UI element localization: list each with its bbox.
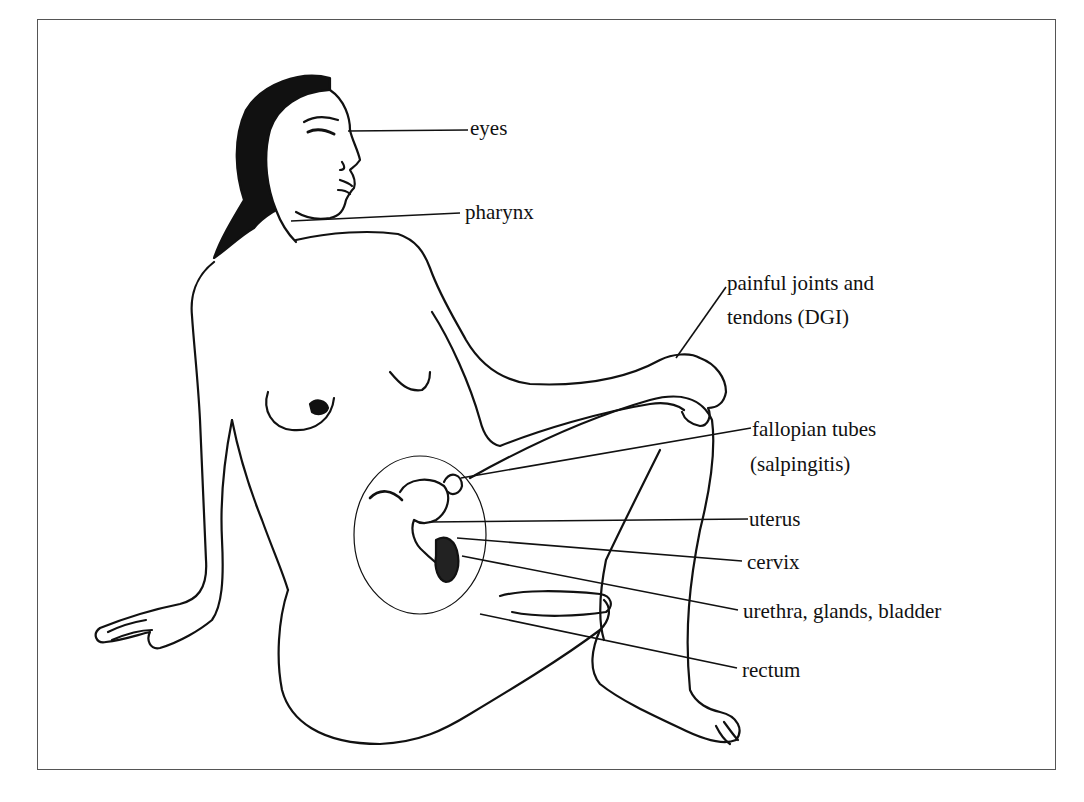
fallopian-tube-left: [370, 491, 402, 500]
foot-under: [500, 591, 611, 616]
label-uterus: uterus: [749, 507, 800, 532]
face-outline: [296, 90, 360, 219]
label-eyes: eyes: [470, 116, 507, 141]
label-urethra-glands-bladder: urethra, glands, bladder: [743, 599, 941, 624]
vulva-shape: [435, 538, 458, 582]
nose-mark: [340, 162, 344, 170]
label-cervix: cervix: [747, 550, 799, 575]
left-shoulder: [96, 262, 232, 648]
brow-mark: [304, 117, 338, 122]
hair-shape: [214, 76, 330, 258]
eye-mark: [308, 130, 334, 134]
label-pharynx: pharynx: [465, 200, 534, 225]
hip-thigh-outline: [279, 590, 609, 744]
breast-right: [390, 372, 430, 390]
neck-line: [276, 210, 296, 242]
label-fallopian-line1: fallopian tubes: [752, 417, 876, 442]
label-joints-line1: painful joints and: [727, 271, 874, 296]
label-joints-line2: tendons (DGI): [727, 305, 849, 330]
forearm-lower: [432, 312, 684, 446]
label-rectum: rectum: [742, 658, 800, 683]
torso-left-line: [232, 420, 288, 590]
label-fallopian-line2: (salpingitis): [750, 452, 850, 477]
nipple-left: [310, 401, 328, 415]
anatomy-illustration: [0, 0, 1084, 802]
